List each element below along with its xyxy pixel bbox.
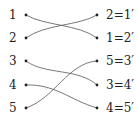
right-dot-5 <box>96 107 99 110</box>
connection-1-to-2prime <box>26 15 97 38</box>
right-label-4: 3=4′ <box>106 79 134 91</box>
right-dot-2 <box>96 37 99 40</box>
left-dot-5 <box>25 107 28 110</box>
left-label-2: 2 <box>9 32 17 44</box>
left-dot-3 <box>25 60 28 63</box>
left-label-4: 4 <box>9 79 17 91</box>
left-dot-1 <box>25 14 28 17</box>
right-dot-4 <box>96 84 99 87</box>
left-label-5: 5 <box>9 102 17 114</box>
connection-5-to-3prime <box>26 61 97 108</box>
left-dot-4 <box>25 84 28 87</box>
right-label-5: 4=5′ <box>106 102 134 114</box>
left-label-1: 1 <box>9 9 17 21</box>
left-label-3: 3 <box>9 55 17 67</box>
right-label-2: 1=2′ <box>106 32 134 44</box>
right-label-3: 5=3′ <box>106 55 134 67</box>
right-dot-1 <box>96 14 99 17</box>
right-dot-3 <box>96 60 99 63</box>
connection-4-to-5prime <box>26 85 97 108</box>
left-dot-2 <box>25 37 28 40</box>
connection-2-to-1prime <box>26 15 97 38</box>
right-label-1: 2=1′ <box>106 9 134 21</box>
